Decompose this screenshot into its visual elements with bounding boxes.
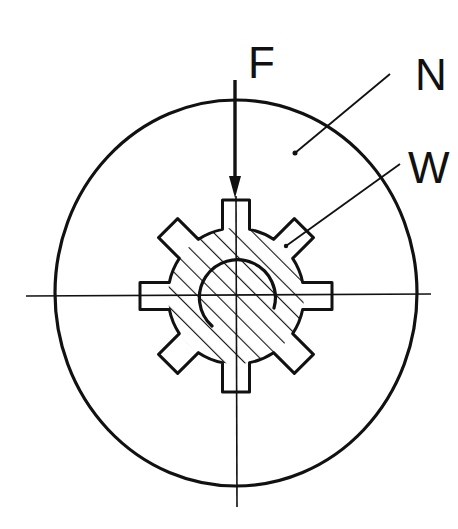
horizontal-axis [26,294,431,296]
force-label: F [248,38,275,87]
hub-label: N [415,50,447,99]
vertical-axis [236,196,237,507]
spline-shaft-diagram: F N W [0,0,458,529]
shaft-label: W [408,143,450,192]
force-arrow-icon [229,80,241,198]
leader-line-shaft [284,164,400,248]
